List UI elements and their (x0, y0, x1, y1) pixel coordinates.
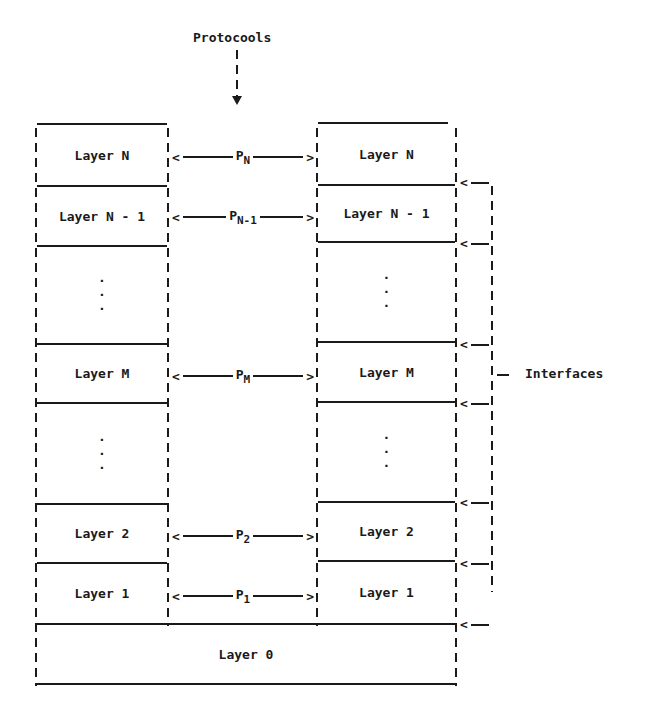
protocol-label: PN-1 (229, 208, 257, 227)
arrow-left-icon: < (172, 210, 180, 225)
layer-0: Layer 0 (37, 625, 455, 683)
right-stack-right-edge (455, 128, 457, 686)
left-layer-1: Layer 1 (37, 564, 167, 623)
interface-arrow: < (460, 236, 492, 251)
interfaces-connector (497, 374, 509, 376)
protocol-arrow-1: < P1 > (172, 587, 314, 606)
left-stack-right-edge (167, 128, 169, 626)
arrow-left-icon: < (172, 150, 180, 165)
protocol-arrow-n: < PN > (172, 148, 314, 167)
protocols-pointer-line (236, 50, 238, 100)
interface-arrow: < (460, 396, 492, 411)
interface-arrow: < (460, 337, 492, 352)
left-layer-n: Layer N (37, 125, 167, 185)
interface-arrow: < (460, 495, 492, 510)
protocol-arrow-2: < P2 > (172, 527, 314, 546)
protocol-label: PM (236, 367, 250, 386)
left-layer-n-1: Layer N - 1 (37, 187, 167, 245)
arrow-left-icon: < (172, 529, 180, 544)
protocol-arrow-m: < PM > (172, 367, 314, 386)
right-ellipsis-1: ··· (318, 243, 455, 341)
right-layer-2: Layer 2 (318, 503, 455, 560)
right-top-border (318, 122, 448, 124)
arrow-left-icon: < (172, 589, 180, 604)
right-layer-1: Layer 1 (318, 562, 455, 623)
left-ellipsis-2: ··· (37, 404, 167, 503)
arrow-right-icon: > (306, 369, 314, 384)
right-ellipsis-2: ··· (318, 403, 455, 501)
arrow-left-icon: < (172, 369, 180, 384)
right-layer-n-1: Layer N - 1 (318, 186, 455, 241)
protocols-arrowhead-icon (232, 96, 242, 105)
protocol-label: PN (236, 148, 250, 167)
divider-layer0-bottom (37, 683, 457, 685)
protocol-label: P1 (236, 587, 250, 606)
protocol-label: P2 (236, 527, 250, 546)
left-ellipsis-1: ··· (37, 247, 167, 343)
interface-arrow: < (460, 175, 492, 190)
protocols-label: Protocools (193, 30, 271, 45)
arrow-right-icon: > (306, 210, 314, 225)
left-layer-m: Layer M (37, 345, 167, 402)
right-layer-m: Layer M (318, 343, 455, 401)
interface-arrow: < (460, 617, 492, 632)
right-layer-n: Layer N (318, 125, 455, 184)
arrow-right-icon: > (306, 529, 314, 544)
arrow-right-icon: > (306, 150, 314, 165)
interface-arrow: < (460, 556, 492, 571)
interfaces-label: Interfaces (525, 366, 603, 381)
protocol-arrow-n-1: < PN-1 > (172, 208, 314, 227)
left-layer-2: Layer 2 (37, 505, 167, 562)
arrow-right-icon: > (306, 589, 314, 604)
